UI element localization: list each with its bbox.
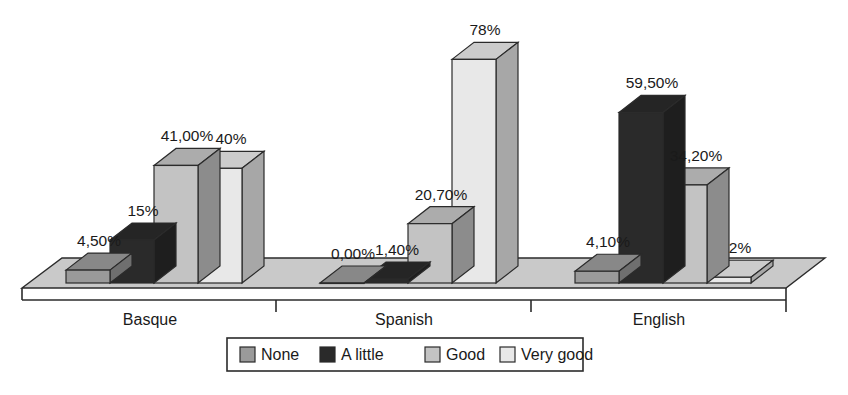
bar-value-label: 1,40% [375,241,419,258]
bar-side-face [707,168,729,283]
bar-side-face [663,95,685,283]
bar-value-label: 2% [729,239,752,256]
bar-chart-svg: 40%41,00%15%4,50%78%20,70%1,40%0,00%2%34… [0,0,848,395]
bar-front-face [320,283,364,284]
legend-swatch-very-good [500,347,515,362]
bar-value-label: 4,10% [586,233,630,250]
bar-value-label: 20,70% [415,186,468,203]
bar-value-label: 59,50% [626,74,679,91]
legend-label-a-little: A little [341,346,384,363]
legend-swatch-none [240,347,255,362]
category-labels-layer: BasqueSpanishEnglish [123,311,685,328]
bar-value-label: 15% [127,202,158,219]
bar-value-label: 41,00% [161,127,214,144]
bar-side-face [496,42,518,283]
bar-value-label: 4,50% [77,232,121,249]
bar-value-label: 34,20% [670,147,723,164]
bar-side-face [242,151,264,283]
legend-swatch-good [425,347,440,362]
legend-swatch-a-little [320,347,335,362]
bar-value-label: 78% [469,21,500,38]
legend-label-good: Good [446,346,485,363]
category-axis [22,288,786,312]
chart-container: 40%41,00%15%4,50%78%20,70%1,40%0,00%2%34… [0,0,848,395]
bar-value-label: 0,00% [331,245,375,262]
category-label-english: English [633,311,685,328]
bar-front-face [364,279,408,283]
bar-front-face [575,271,619,283]
legend-label-none: None [261,346,299,363]
category-label-basque: Basque [123,311,177,328]
chart-legend: NoneA littleGoodVery good [227,338,593,371]
bar-value-label: 40% [215,130,246,147]
legend-label-very-good: Very good [521,346,593,363]
bar-side-face [198,148,220,283]
category-label-spanish: Spanish [375,311,433,328]
bar-front-face [66,270,110,283]
